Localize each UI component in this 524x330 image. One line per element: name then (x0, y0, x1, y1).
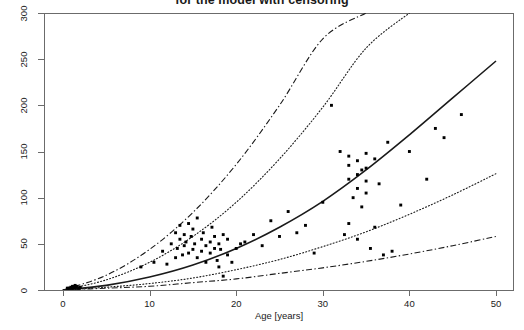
data-point (356, 159, 359, 162)
data-point (365, 152, 368, 155)
data-point (425, 178, 428, 181)
data-point (226, 238, 229, 241)
data-point (200, 238, 203, 241)
y-tick-label: 250 (18, 46, 29, 72)
data-point (443, 136, 446, 139)
x-tick-label: 50 (483, 298, 509, 309)
data-point (139, 265, 142, 268)
data-point (347, 222, 350, 225)
data-point (373, 226, 376, 229)
data-point (219, 248, 222, 251)
data-point (321, 201, 324, 204)
axis-ticks (38, 14, 497, 297)
data-point (174, 256, 177, 259)
data-point (187, 252, 190, 255)
data-point (204, 244, 207, 247)
data-point (365, 192, 368, 195)
data-point (230, 261, 233, 264)
y-tick-label: 300 (18, 0, 29, 26)
data-point (216, 259, 219, 262)
chart-figure: for the model with censoring Metal Loss … (0, 0, 524, 330)
data-point (313, 252, 316, 255)
data-point (330, 104, 333, 107)
data-point (382, 253, 385, 256)
data-point (356, 173, 359, 176)
y-tick-label: 50 (18, 231, 29, 257)
y-tick-label: 150 (18, 139, 29, 165)
data-point (181, 253, 184, 256)
data-point (369, 247, 372, 250)
data-point (222, 233, 225, 236)
plot-area (0, 0, 524, 330)
x-tick-label: 40 (396, 298, 422, 309)
data-point (196, 217, 199, 220)
data-point (79, 286, 82, 289)
data-point (200, 250, 203, 253)
data-point (360, 169, 363, 172)
data-point (235, 247, 238, 250)
data-point (365, 180, 368, 183)
curve-solid (63, 61, 496, 290)
data-point (352, 196, 355, 199)
data-point (213, 247, 216, 250)
data-point (347, 155, 350, 158)
data-point (209, 241, 212, 244)
data-point (213, 235, 216, 238)
data-point (183, 244, 186, 247)
data-point (191, 228, 194, 231)
data-point (152, 261, 155, 264)
data-point (239, 242, 242, 245)
data-point (209, 252, 212, 255)
data-point (356, 187, 359, 190)
prediction-curves (63, 13, 496, 290)
data-point (187, 222, 190, 225)
data-point (243, 241, 246, 244)
data-point (378, 182, 381, 185)
y-tick-label: 0 (18, 277, 29, 303)
plot-frame (45, 14, 514, 291)
data-point (408, 150, 411, 153)
data-point (386, 141, 389, 144)
data-point (278, 235, 281, 238)
data-point (226, 253, 229, 256)
data-point (347, 178, 350, 181)
data-point (399, 204, 402, 207)
data-point (174, 231, 177, 234)
data-point (183, 233, 186, 236)
data-point (460, 113, 463, 116)
y-tick-label: 200 (18, 92, 29, 118)
data-point (161, 250, 164, 253)
data-point (176, 247, 179, 250)
x-tick-label: 0 (50, 298, 76, 309)
data-point (269, 219, 272, 222)
data-point (339, 150, 342, 153)
y-tick-label: 100 (18, 185, 29, 211)
x-tick-label: 10 (137, 298, 163, 309)
data-point (391, 250, 394, 253)
data-point (211, 226, 214, 229)
data-point (434, 127, 437, 130)
data-point (356, 238, 359, 241)
x-tick-label: 20 (223, 298, 249, 309)
data-point (165, 263, 168, 266)
data-point (360, 205, 363, 208)
data-point (191, 248, 194, 251)
data-point (261, 244, 264, 247)
data-point (373, 157, 376, 160)
data-point (193, 242, 196, 245)
data-point (185, 241, 188, 244)
data-point (252, 233, 255, 236)
scatter-points (66, 104, 463, 290)
data-point (304, 224, 307, 227)
data-point (222, 275, 225, 278)
data-point (196, 256, 199, 259)
data-point (202, 231, 205, 234)
data-point (347, 164, 350, 167)
data-point (365, 167, 368, 170)
data-point (178, 238, 181, 241)
data-point (204, 261, 207, 264)
data-point (217, 265, 220, 268)
x-tick-label: 30 (310, 298, 336, 309)
data-point (287, 210, 290, 213)
data-point (343, 233, 346, 236)
